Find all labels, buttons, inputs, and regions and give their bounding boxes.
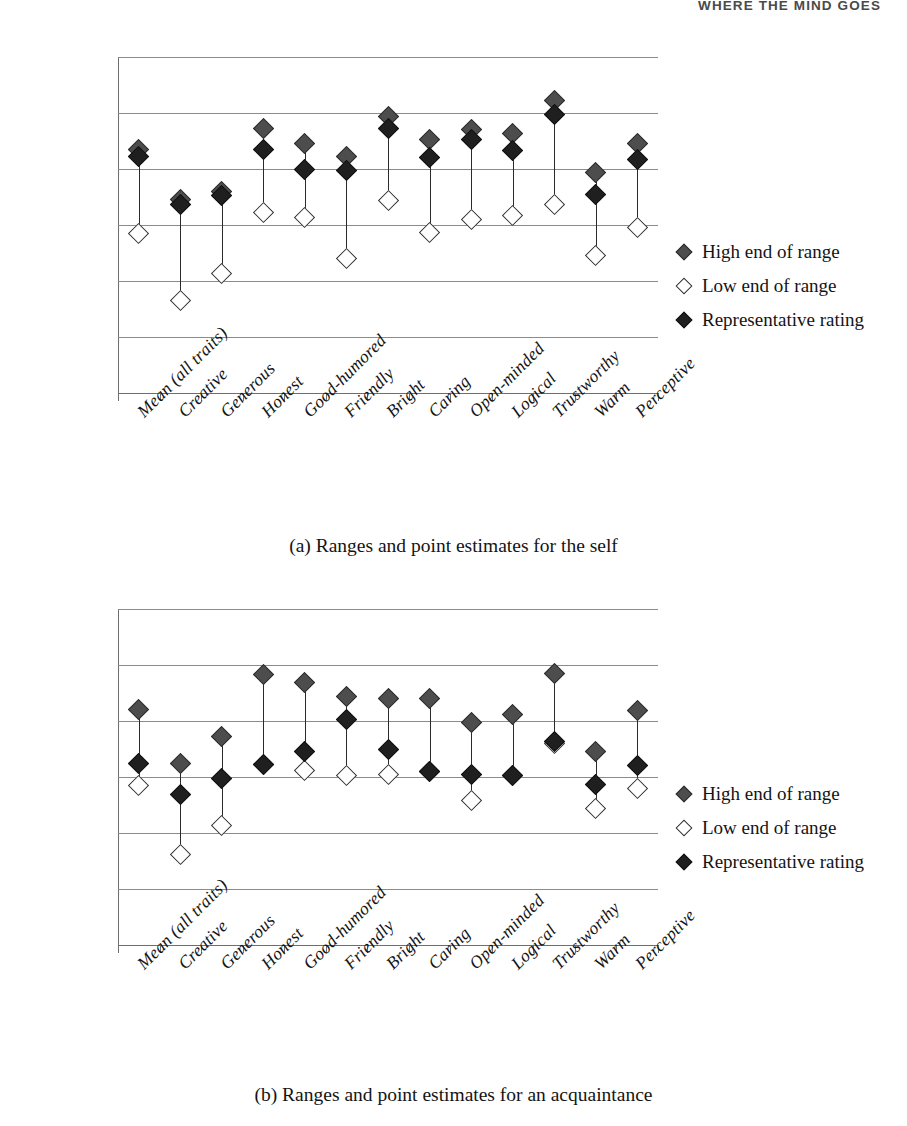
legend-item-label: Low end of range (702, 275, 837, 297)
legend-item-label: Representative rating (702, 309, 864, 331)
x-tick-0 (118, 945, 119, 953)
gridline-40 (118, 889, 658, 890)
legend-item-rep[interactable]: Representative rating (678, 303, 864, 337)
gridline-50 (118, 281, 658, 282)
legend-a: High end of rangeLow end of rangeReprese… (678, 235, 864, 337)
range-stem (139, 710, 140, 786)
legend-item-low[interactable]: Low end of range (678, 269, 864, 303)
legend-item-label: High end of range (702, 783, 840, 805)
gridline-90 (118, 57, 658, 58)
gridline-40 (118, 337, 658, 338)
filled-diamond-gray-icon (676, 244, 693, 261)
legend-item-label: Representative rating (702, 851, 864, 873)
legend-item-label: High end of range (702, 241, 840, 263)
filled-diamond-black-icon (676, 854, 693, 871)
legend-item-low[interactable]: Low end of range (678, 811, 864, 845)
gridline-60 (118, 225, 658, 226)
filled-diamond-black-icon (676, 312, 693, 329)
open-diamond-icon (676, 278, 693, 295)
x-tick-0 (118, 393, 119, 401)
legend-item-high[interactable]: High end of range (678, 777, 864, 811)
open-diamond-icon (676, 820, 693, 837)
filled-diamond-gray-icon (676, 786, 693, 803)
legend-item-high[interactable]: High end of range (678, 235, 864, 269)
gridline-80 (118, 665, 658, 666)
range-stem (180, 763, 181, 855)
figure-a: 30405060708090Mean (all traits)CreativeG… (0, 20, 907, 565)
figure-caption-a: (a) Ranges and point estimates for the s… (0, 535, 907, 557)
legend-item-rep[interactable]: Representative rating (678, 845, 864, 879)
figure-caption-b: (b) Ranges and point estimates for an ac… (0, 1084, 907, 1106)
legend-item-label: Low end of range (702, 817, 837, 839)
legend-b: High end of rangeLow end of rangeReprese… (678, 777, 864, 879)
running-head: WHERE THE MIND GOES (698, 0, 881, 13)
gridline-50 (118, 833, 658, 834)
range-stem (263, 675, 264, 765)
figure-b: 30405060708090Mean (all traits)CreativeG… (0, 572, 907, 1117)
gridline-90 (118, 609, 658, 610)
